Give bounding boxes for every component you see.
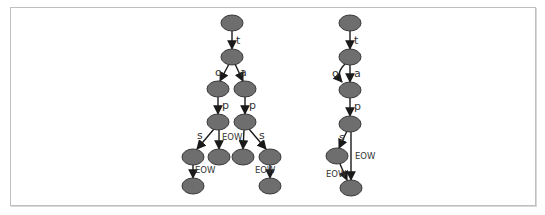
node — [234, 81, 256, 97]
edge-o-curved — [339, 64, 345, 82]
node — [232, 149, 254, 165]
label-eow-from-s: EOW — [326, 169, 347, 179]
edge-eow-mid — [243, 130, 244, 149]
node — [207, 114, 229, 130]
node — [339, 82, 361, 98]
node — [259, 149, 281, 165]
node — [234, 114, 256, 130]
node — [207, 81, 229, 97]
node — [182, 178, 204, 194]
label-p-right: p — [249, 99, 256, 112]
label-p-left: p — [222, 99, 229, 112]
node — [339, 116, 361, 132]
label-a: a — [354, 67, 361, 80]
node — [221, 49, 243, 65]
node — [339, 15, 361, 31]
label-o: o — [215, 66, 222, 79]
node — [208, 149, 230, 165]
node — [221, 15, 243, 31]
trie-dawg-diagram: t o a p p s EOW s EOW EOW t o a p — [0, 0, 545, 215]
left-trie: t o a p p s EOW s EOW EOW — [182, 15, 281, 194]
label-o: o — [332, 67, 339, 80]
label-t: t — [354, 34, 359, 47]
node — [339, 49, 361, 65]
node — [340, 180, 362, 196]
right-dawg: t o a p s EOW EOW — [326, 15, 376, 196]
label-eow-bottom-right: EOW — [255, 165, 276, 175]
label-a: a — [240, 66, 247, 79]
node — [182, 149, 204, 165]
label-s: s — [339, 131, 345, 144]
node — [259, 178, 281, 194]
label-s-right: s — [259, 129, 265, 142]
label-eow-bottom-left: EOW — [195, 165, 216, 175]
label-eow-left: EOW — [222, 132, 243, 142]
label-eow-direct: EOW — [355, 151, 376, 161]
label-p: p — [354, 100, 361, 113]
label-s-left: s — [197, 129, 203, 142]
label-t: t — [236, 34, 241, 47]
node — [326, 148, 348, 164]
